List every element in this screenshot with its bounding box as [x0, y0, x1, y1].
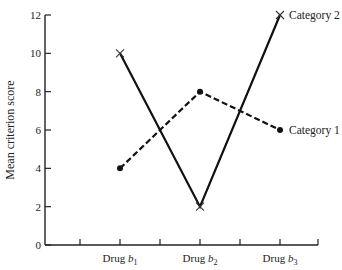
y-tick-label: 8 — [36, 86, 42, 98]
series-label: Category 2 — [289, 9, 340, 22]
series-line — [120, 15, 280, 207]
x-tick-label: Drug b2 — [183, 252, 218, 267]
series-label: Category 1 — [289, 124, 340, 137]
y-axis-label: Mean criterion score — [3, 80, 17, 179]
y-tick-label: 2 — [36, 201, 42, 213]
dot-marker-icon — [117, 165, 123, 171]
dot-marker-icon — [277, 127, 283, 133]
series-category-1: Category 1 — [117, 89, 340, 172]
y-tick-label: 12 — [30, 9, 41, 21]
y-tick-label: 6 — [36, 124, 42, 136]
y-axis-ticks: 024681012 — [30, 9, 51, 251]
x-tick-label: Drug b1 — [103, 252, 138, 267]
x-marker-icon — [116, 49, 124, 57]
y-tick-label: 4 — [36, 162, 42, 174]
y-tick-label: 0 — [36, 239, 42, 251]
series-line — [120, 92, 280, 169]
x-tick-label: Drug b3 — [263, 252, 298, 267]
x-axis-ticks: Drug b1Drug b2Drug b3 — [80, 239, 318, 267]
y-tick-label: 10 — [30, 47, 42, 59]
series-category-2: Category 2 — [116, 9, 340, 211]
dot-marker-icon — [197, 89, 203, 95]
data-series: Category 1Category 2 — [116, 9, 340, 211]
interaction-line-chart: 024681012 Drug b1Drug b2Drug b3 Category… — [0, 0, 342, 270]
